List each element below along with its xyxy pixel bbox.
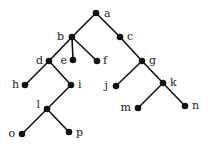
node-b (69, 34, 76, 41)
node-label-o: o (8, 127, 15, 140)
tree-edges (22, 13, 185, 134)
edge-b-f (72, 37, 97, 61)
node-label-g: g (149, 54, 156, 67)
node-g (139, 58, 146, 65)
node-l (44, 106, 51, 113)
tree-nodes (19, 10, 189, 138)
node-d (46, 58, 53, 65)
node-m (135, 105, 142, 112)
node-i (68, 82, 75, 89)
node-label-d: d (36, 54, 43, 67)
node-j (113, 83, 120, 90)
edge-i-l (47, 85, 71, 109)
edge-l-o (22, 109, 47, 134)
edge-k-m (138, 83, 163, 108)
node-label-f: f (103, 54, 108, 67)
node-e (70, 57, 77, 64)
node-p (66, 129, 73, 136)
node-label-b: b (57, 30, 64, 43)
node-h (22, 82, 29, 89)
node-label-k: k (170, 76, 177, 89)
node-label-p: p (76, 126, 83, 139)
edge-l-p (47, 109, 69, 132)
edge-g-j (116, 61, 142, 86)
node-n (182, 103, 189, 110)
node-label-a: a (104, 7, 111, 20)
node-label-h: h (12, 78, 19, 91)
node-label-n: n (192, 99, 199, 112)
node-label-j: j (103, 79, 108, 92)
edge-b-e (72, 37, 73, 60)
node-a (93, 10, 100, 17)
node-label-c: c (127, 30, 133, 43)
node-c (117, 34, 124, 41)
node-k (160, 80, 167, 87)
edge-a-b (72, 13, 96, 37)
node-f (94, 58, 101, 65)
node-label-m: m (121, 101, 132, 114)
tree-diagram: abcdefghijklmnop (0, 0, 211, 148)
node-label-l: l (36, 98, 40, 111)
node-o (19, 131, 26, 138)
node-label-i: i (78, 78, 82, 91)
node-label-e: e (60, 54, 67, 67)
